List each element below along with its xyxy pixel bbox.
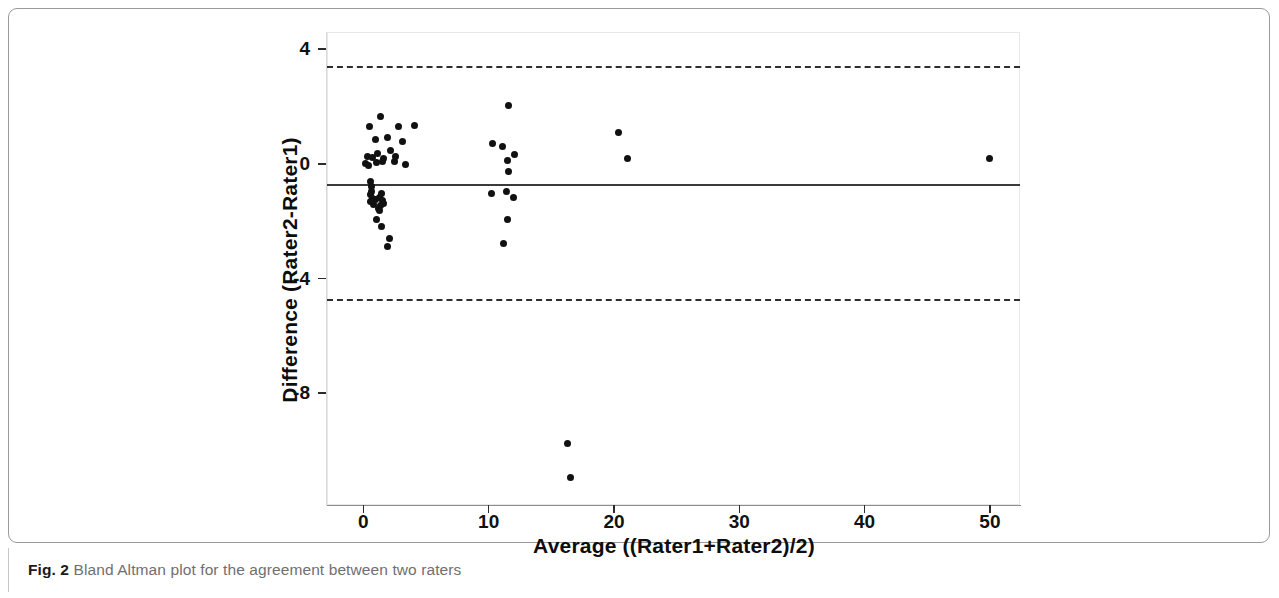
- scatter-point: [378, 190, 385, 197]
- scatter-point: [489, 140, 496, 147]
- upper-limit-of-agreement-line: [327, 66, 1020, 68]
- x-tick-label: 0: [333, 512, 393, 531]
- scatter-point: [376, 207, 383, 214]
- scatter-point: [391, 158, 398, 165]
- figure-container: 40-4-8 01020304050 Average ((Rater1+Rate…: [0, 0, 1279, 598]
- scatter-point: [384, 134, 391, 141]
- scatter-point: [402, 161, 409, 168]
- scatter-point: [399, 138, 406, 145]
- caption-line: Fig. 2 Bland Altman plot for the agreeme…: [28, 561, 461, 579]
- mean-difference-line: [327, 184, 1020, 186]
- caption-figure-label: Fig. 2: [28, 561, 69, 578]
- y-tick-label: 4: [270, 39, 310, 58]
- scatter-point: [366, 123, 373, 130]
- x-tick-label: 20: [584, 512, 644, 531]
- x-tick-label: 50: [960, 512, 1020, 531]
- x-tick-label: 30: [709, 512, 769, 531]
- y-tick-mark: [318, 163, 326, 165]
- lower-limit-of-agreement-line: [327, 299, 1020, 301]
- scatter-point: [378, 223, 385, 230]
- scatter-point: [504, 157, 511, 164]
- scatter-point: [567, 474, 574, 481]
- y-axis-spine: [326, 32, 327, 506]
- figure-caption: Fig. 2 Bland Altman plot for the agreeme…: [8, 548, 1270, 592]
- scatter-point: [564, 440, 571, 447]
- scatter-point: [505, 168, 512, 175]
- x-tick-label: 40: [835, 512, 895, 531]
- plot-area: [327, 32, 1020, 505]
- y-tick-mark: [318, 48, 326, 50]
- y-tick-mark: [318, 278, 326, 280]
- y-tick-mark: [318, 392, 326, 394]
- x-tick-label: 10: [459, 512, 519, 531]
- x-axis-spine: [327, 505, 1021, 506]
- scatter-point: [488, 190, 495, 197]
- y-axis-title: Difference (Rater2-Rater1): [278, 60, 302, 480]
- caption-rule: [8, 548, 9, 592]
- caption-description: Bland Altman plot for the agreement betw…: [69, 561, 461, 578]
